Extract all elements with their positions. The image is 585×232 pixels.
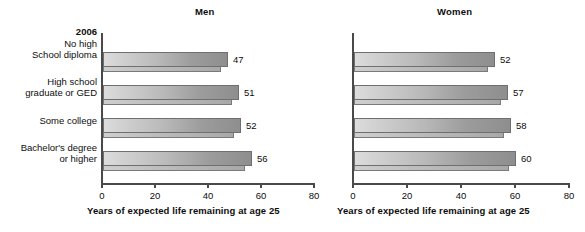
x-axis-caption-women: Years of expected life remaining at age … [337,205,530,216]
x-tick-label-women-0: 0 [350,190,355,201]
chart-panel-women: 0 20 40 60 80 52 57 58 60 [251,0,585,232]
bar-men-0-depth [103,67,221,72]
x-tick-label-women-40: 40 [456,190,467,201]
x-tick-men-40 [207,183,209,188]
bar-men-1 [103,85,239,100]
x-tick-label-women-60: 60 [510,190,521,201]
x-tick-women-80 [568,183,570,188]
x-tick-men-20 [154,183,156,188]
bar-men-3-depth [103,166,245,171]
figure-container: Men Women 2006 No high School diploma Hi… [0,0,585,232]
x-tick-women-0 [352,183,354,188]
x-tick-label-men-20: 20 [150,190,161,201]
bar-women-0-depth [354,67,488,72]
bar-value-women-1: 57 [513,87,524,98]
bar-women-1 [354,85,508,100]
bar-women-0 [354,52,495,67]
bar-men-1-depth [103,100,232,105]
x-tick-label-men-40: 40 [203,190,214,201]
bar-women-2-depth [354,133,504,138]
x-tick-women-20 [406,183,408,188]
bar-men-2 [103,118,241,133]
bar-women-2 [354,118,511,133]
bar-value-women-2: 58 [516,120,527,131]
bar-women-3-depth [354,166,509,171]
bar-value-women-0: 52 [500,54,511,65]
bar-women-3 [354,151,516,166]
bar-value-men-0: 47 [233,54,244,65]
x-axis-caption-men: Years of expected life remaining at age … [87,205,280,216]
bar-value-women-3: 60 [521,153,532,164]
x-tick-men-0 [101,183,103,188]
x-tick-women-60 [514,183,516,188]
x-tick-women-40 [460,183,462,188]
bar-men-2-depth [103,133,234,138]
x-tick-label-women-20: 20 [402,190,413,201]
x-tick-label-women-80: 80 [564,190,575,201]
bar-men-3 [103,151,252,166]
x-tick-label-men-0: 0 [99,190,104,201]
bar-men-0 [103,52,228,67]
bar-women-1-depth [354,100,501,105]
